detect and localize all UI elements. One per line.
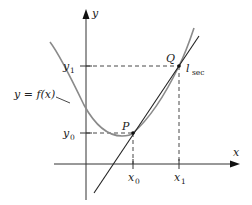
svg-text:y: y [62, 60, 70, 73]
y-axis: y [83, 7, 100, 200]
guide-lines [86, 66, 179, 164]
x1-tick-label: x 1 [174, 171, 186, 186]
x0-tick-label: x 0 [128, 171, 140, 186]
svg-text:l: l [186, 62, 190, 75]
secant-line-diagram: y x P Q l sec y 1 y 0 [0, 0, 252, 205]
tick-marks [80, 66, 179, 169]
svg-text:x: x [174, 171, 181, 184]
svg-text:y = f(x): y = f(x) [13, 88, 55, 101]
svg-text:y: y [62, 127, 70, 140]
x-axis-arrow-icon [230, 161, 240, 168]
y1-tick-label: y 1 [62, 60, 75, 75]
x-axis-label: x [233, 146, 240, 159]
point-q-marker [177, 64, 181, 68]
svg-text:x: x [128, 171, 135, 184]
curve-label: y = f(x) [13, 88, 70, 103]
secant-line [94, 36, 199, 193]
y-axis-label: y [91, 7, 99, 20]
svg-text:1: 1 [181, 177, 186, 186]
y0-tick-label: y 0 [62, 127, 75, 142]
point-p-marker [131, 131, 135, 135]
svg-text:sec: sec [192, 68, 205, 77]
point-p-label: P [121, 120, 130, 133]
secant-label: l sec [186, 62, 205, 77]
svg-text:0: 0 [70, 133, 75, 142]
y-axis-arrow-icon [83, 9, 90, 19]
x-axis: x [54, 146, 240, 168]
point-q-label: Q [166, 52, 175, 65]
svg-text:0: 0 [135, 177, 140, 186]
svg-text:1: 1 [70, 66, 75, 75]
curve-label-leader [56, 97, 70, 103]
